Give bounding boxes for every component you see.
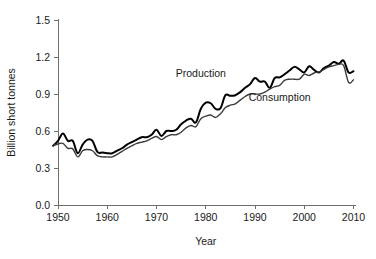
- series-label-production: Production: [176, 67, 226, 79]
- y-tick-label: 0.3: [35, 162, 50, 174]
- x-tick-label: 2010: [342, 211, 366, 223]
- x-axis-title: Year: [195, 235, 217, 247]
- y-tick-label: 0.9: [35, 88, 50, 100]
- x-tick-label: 2000: [293, 211, 317, 223]
- x-axis-tick-labels: 1950196019701980199020002010: [46, 211, 365, 223]
- y-axis-ticks: [54, 20, 58, 205]
- x-tick-label: 1990: [243, 211, 267, 223]
- y-axis-tick-labels: 0.00.30.60.91.21.5: [35, 14, 50, 211]
- chart-figure: 0.00.30.60.91.21.5 195019601970198019902…: [0, 0, 376, 259]
- x-tick-label: 1970: [145, 211, 169, 223]
- y-tick-label: 1.5: [35, 14, 50, 26]
- x-axis-ticks: [58, 205, 354, 209]
- y-tick-label: 0.6: [35, 125, 50, 137]
- x-tick-label: 1980: [194, 211, 218, 223]
- x-tick-label: 1960: [96, 211, 120, 223]
- plot-area: 0.00.30.60.91.21.5 195019601970198019902…: [5, 14, 365, 247]
- line-chart-canvas: 0.00.30.60.91.21.5 195019601970198019902…: [0, 0, 376, 259]
- x-tick-label: 1950: [46, 211, 70, 223]
- y-tick-label: 0.0: [35, 199, 50, 211]
- y-axis-title: Billion short tonnes: [5, 68, 17, 157]
- y-tick-label: 1.2: [35, 51, 50, 63]
- series-label-consumption: Consumption: [249, 91, 311, 103]
